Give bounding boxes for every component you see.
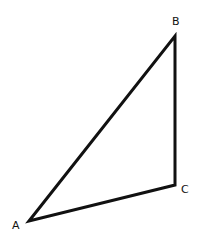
triangle-diagram: A B C	[0, 0, 197, 239]
vertex-label-a: A	[12, 219, 20, 232]
vertex-label-b: B	[172, 15, 180, 28]
triangle-abc	[29, 36, 175, 221]
vertex-label-c: C	[181, 183, 189, 196]
